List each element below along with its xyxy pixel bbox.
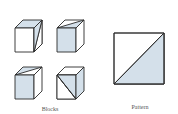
block-3 xyxy=(15,67,42,99)
block-2 xyxy=(57,20,84,52)
block-4 xyxy=(57,67,84,99)
pattern-square xyxy=(114,33,164,84)
blocks-and-pattern-figure xyxy=(0,0,178,114)
block-1 xyxy=(15,20,42,52)
pattern-caption: Pattern xyxy=(118,104,162,110)
blocks-caption: Blocks xyxy=(28,106,72,112)
